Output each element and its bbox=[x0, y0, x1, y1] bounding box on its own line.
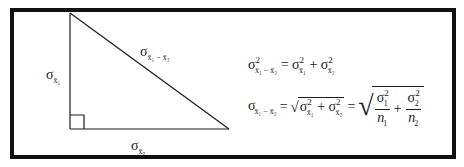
superscript: 2 bbox=[384, 88, 389, 98]
subscript: x̄₁ − x̄₂ bbox=[255, 66, 277, 75]
hypotenuse-line bbox=[70, 13, 229, 129]
subscript: x̄₁ bbox=[54, 76, 61, 85]
subscript: 1 bbox=[383, 119, 387, 128]
equation-standard-error: σx̄₁ − x̄₂ = √ σ2x̄₁ + σ2x̄₂ = √ σ21 n1 … bbox=[248, 86, 424, 128]
denominator-1: n1 bbox=[375, 110, 390, 128]
subscript: x̄₁ − x̄₂ bbox=[255, 107, 277, 116]
right-triangle bbox=[0, 0, 464, 167]
plus-sign: + bbox=[309, 57, 317, 72]
superscript: 2 bbox=[307, 97, 312, 107]
superscript: 2 bbox=[256, 55, 261, 65]
subscript: x̄₁ bbox=[307, 108, 314, 117]
vertical-leg-label: σx̄₁ bbox=[46, 68, 60, 85]
sigma-symbol: σ bbox=[329, 99, 337, 114]
subscript: 2 bbox=[414, 119, 418, 128]
sigma-symbol: σ bbox=[131, 138, 139, 153]
numerator-1: σ21 bbox=[375, 89, 390, 110]
superscript: 2 bbox=[415, 88, 420, 98]
equals-sign: = bbox=[281, 57, 289, 72]
sigma-symbol: σ bbox=[140, 44, 148, 59]
fraction-1: σ21 n1 bbox=[375, 89, 390, 128]
superscript: 2 bbox=[300, 55, 305, 65]
subscript: x̄₁ − x̄₂ bbox=[148, 53, 170, 62]
superscript: 2 bbox=[336, 97, 341, 107]
lhs: σx̄₁ − x̄₂ bbox=[248, 99, 277, 116]
equals-sign: = bbox=[280, 100, 288, 114]
plus-sign: + bbox=[317, 99, 325, 114]
superscript: 2 bbox=[328, 55, 333, 65]
sigma-symbol: σ bbox=[46, 67, 54, 82]
hypotenuse-label: σx̄₁ − x̄₂ bbox=[140, 45, 170, 62]
sqrt-variance-sum: σ2x̄₁ + σ2x̄₂ bbox=[298, 97, 345, 117]
sqrt-fraction-sum: σ21 n1 + σ22 n2 bbox=[372, 86, 424, 128]
plus-sign: + bbox=[394, 102, 402, 116]
subscript: x̄₂ bbox=[336, 108, 343, 117]
subscript: x̄₁ bbox=[299, 66, 306, 75]
subscript: 2 bbox=[415, 99, 419, 108]
horizontal-leg-label: σx̄₂ bbox=[131, 139, 145, 156]
fraction-2: σ22 n2 bbox=[406, 89, 421, 128]
equals-sign: = bbox=[347, 100, 355, 114]
subscript: x̄₂ bbox=[139, 147, 146, 156]
equation-variance-sum: σ2x̄₁ − x̄₂ = σ2x̄₁ + σ2x̄₂ bbox=[248, 56, 335, 75]
subscript: x̄₂ bbox=[328, 66, 335, 75]
numerator-2: σ22 bbox=[406, 89, 421, 110]
subscript: 1 bbox=[384, 99, 388, 108]
denominator-2: n2 bbox=[406, 110, 421, 128]
right-angle-marker bbox=[70, 115, 84, 129]
